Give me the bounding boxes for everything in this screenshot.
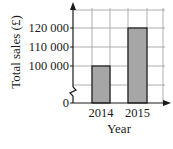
x-tick-2015: 2015 [125, 106, 150, 120]
y-tick-120000: 120 000 [28, 21, 69, 35]
x-axis-arrow-icon [163, 100, 171, 106]
y-axis [70, 8, 76, 103]
grid [73, 8, 165, 103]
y-axis-arrow-icon [70, 2, 76, 10]
y-axis-label: Total sales (£) [8, 15, 23, 88]
x-axis-label: Year [107, 121, 132, 136]
y-tick-100000: 100 000 [28, 59, 69, 73]
y-tick-0: 0 [63, 96, 69, 110]
y-tick-110000: 110 000 [29, 40, 69, 54]
bar-chart: 120 000 110 000 100 000 0 2014 2015 Year… [0, 0, 173, 149]
bar-2015 [128, 28, 147, 103]
x-tick-2014: 2014 [89, 106, 115, 120]
bar-2014 [92, 66, 110, 103]
